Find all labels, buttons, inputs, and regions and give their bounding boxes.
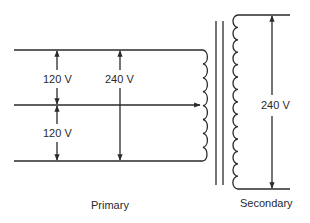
schematic-canvas [0,0,310,223]
secondary-caption: Secondary [240,197,293,209]
primary-lower-voltage-label: 120 V [42,127,73,139]
primary-caption: Primary [91,199,129,211]
transformer-diagram: 120 V 120 V 240 V 240 V Primary Secondar… [0,0,310,223]
secondary-voltage-label: 240 V [260,99,291,111]
secondary-coil [233,15,238,189]
primary-coil [203,50,207,161]
primary-total-voltage-label: 240 V [104,73,135,85]
primary-upper-voltage-label: 120 V [42,73,73,85]
